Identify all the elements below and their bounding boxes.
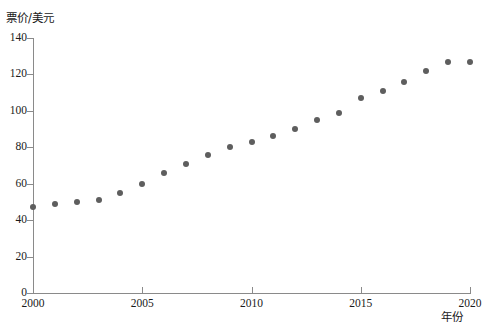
data-point	[249, 139, 255, 145]
data-point	[423, 68, 429, 74]
y-tick-mark	[27, 257, 34, 258]
y-tick-mark	[27, 74, 34, 75]
data-point	[117, 190, 123, 196]
y-tick-mark	[27, 220, 34, 221]
data-point	[270, 133, 276, 139]
x-tick-label: 2015	[331, 297, 391, 309]
x-tick-label: 2005	[112, 297, 172, 309]
data-point	[183, 161, 189, 167]
y-tick-label: 100	[0, 105, 27, 117]
data-point	[445, 59, 451, 65]
data-point	[358, 95, 364, 101]
y-tick-label: 40	[0, 214, 27, 226]
data-point	[336, 110, 342, 116]
x-tick-label: 2020	[440, 297, 486, 309]
scatter-chart: 票价/美元 年份 020406080100120140 200020052010…	[0, 0, 486, 332]
data-point	[52, 201, 58, 207]
y-tick-label: 140	[0, 32, 27, 44]
data-point	[292, 126, 298, 132]
data-point	[227, 144, 233, 150]
y-tick-mark	[27, 184, 34, 185]
y-tick-label: 20	[0, 251, 27, 263]
data-point	[467, 59, 473, 65]
y-tick-mark	[27, 293, 34, 294]
plot-area	[0, 0, 486, 332]
y-tick-mark	[27, 111, 34, 112]
y-tick-mark	[27, 38, 34, 39]
data-point	[74, 199, 80, 205]
data-point	[139, 181, 145, 187]
data-point	[401, 79, 407, 85]
x-tick-label: 2010	[222, 297, 282, 309]
data-point	[96, 197, 102, 203]
y-tick-label: 60	[0, 178, 27, 190]
x-tick-mark	[470, 287, 471, 294]
data-point	[205, 152, 211, 158]
x-tick-mark	[142, 287, 143, 294]
x-tick-mark	[361, 287, 362, 294]
x-tick-label: 2000	[3, 297, 63, 309]
y-tick-mark	[27, 147, 34, 148]
data-point	[380, 88, 386, 94]
y-tick-label: 120	[0, 68, 27, 80]
data-point	[314, 117, 320, 123]
data-point	[161, 170, 167, 176]
x-axis-title: 年份	[441, 311, 463, 324]
y-axis-title: 票价/美元	[6, 12, 54, 25]
y-tick-label: 80	[0, 141, 27, 153]
x-tick-mark	[252, 287, 253, 294]
